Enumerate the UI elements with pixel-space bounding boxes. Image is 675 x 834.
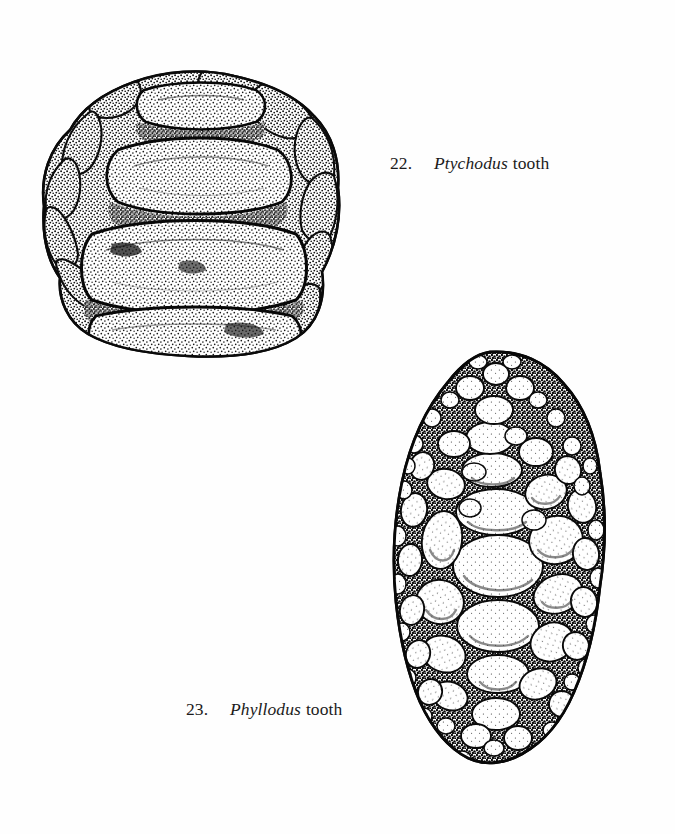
genus-name-ptychodus: Ptychodus	[434, 153, 513, 173]
genus-name-phyllodus: Phyllodus	[230, 699, 306, 719]
ridge-4	[89, 307, 301, 360]
ridge-2	[107, 138, 292, 214]
ridge-3-median	[82, 221, 307, 314]
phyllodus-plate-group	[390, 352, 606, 767]
figure-number-23: 23.	[186, 701, 230, 719]
page-canvas: 22.Ptychodustooth 23.Phyllodustooth	[0, 0, 675, 834]
phyllodus-tooth-illustration	[386, 344, 620, 794]
figure-number-22: 22.	[390, 155, 434, 173]
caption-figure-23: 23.Phyllodustooth	[186, 701, 342, 719]
figure-phyllodus-tooth	[386, 344, 620, 794]
ptychodus-crown-group	[43, 70, 339, 360]
ridge-1	[137, 83, 265, 130]
figure-ptychodus-tooth	[30, 38, 350, 360]
ptychodus-tooth-illustration	[30, 38, 350, 360]
caption-common-noun-23: tooth	[306, 699, 342, 719]
caption-figure-22: 22.Ptychodustooth	[390, 155, 549, 173]
caption-common-noun-22: tooth	[513, 153, 549, 173]
denticle-median	[457, 600, 539, 652]
